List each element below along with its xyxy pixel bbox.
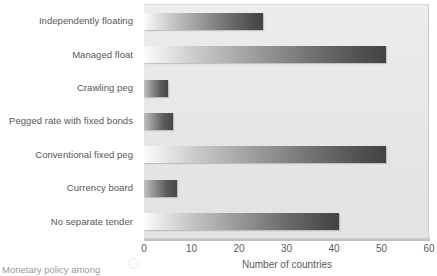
category-label-conventional-fixed-peg: Conventional fixed peg <box>35 149 133 160</box>
bar-row <box>144 72 428 105</box>
category-label-no-separate-tender: No separate tender <box>51 216 133 227</box>
bars-container <box>144 5 428 238</box>
bar-pegged-rate-with-fixed-bonds <box>144 113 173 130</box>
category-row: Pegged rate with fixed bonds <box>0 104 139 137</box>
x-tick-label-0: 0 <box>141 243 147 254</box>
bar-row <box>144 205 428 238</box>
x-tick-label-50: 50 <box>376 243 387 254</box>
figure-caption: Monetary policy among <box>2 264 100 276</box>
bar-row <box>144 138 428 171</box>
circle-icon <box>128 258 139 269</box>
category-label-independently-floating: Independently floating <box>39 15 133 26</box>
category-row: Conventional fixed peg <box>0 138 139 171</box>
bar-managed-float <box>144 46 386 63</box>
bar-currency-board <box>144 180 177 197</box>
category-row: No separate tender <box>0 205 139 238</box>
category-row: Currency board <box>0 171 139 204</box>
category-axis: Independently floating Managed float Cra… <box>0 4 139 238</box>
category-row: Independently floating <box>0 4 139 37</box>
x-axis-line <box>144 238 430 241</box>
bar-row <box>144 5 428 38</box>
x-tick-label-40: 40 <box>328 243 339 254</box>
x-tick-label-20: 20 <box>233 243 244 254</box>
category-label-managed-float: Managed float <box>72 49 133 60</box>
x-axis-title: Number of countries <box>144 259 430 270</box>
bar-crawling-peg <box>144 80 168 97</box>
bar-conventional-fixed-peg <box>144 146 386 163</box>
bar-independently-floating <box>144 13 263 30</box>
category-label-currency-board: Currency board <box>67 182 133 193</box>
bar-row <box>144 38 428 71</box>
x-tick-label-60: 60 <box>423 243 434 254</box>
bar-row <box>144 105 428 138</box>
x-axis-tick-labels: 0102030405060 <box>144 243 430 259</box>
bar-no-separate-tender <box>144 213 339 230</box>
category-row: Crawling peg <box>0 71 139 104</box>
x-tick-label-10: 10 <box>186 243 197 254</box>
bar-row <box>144 171 428 204</box>
plot-area <box>144 4 429 238</box>
category-label-crawling-peg: Crawling peg <box>77 82 133 93</box>
x-tick-label-30: 30 <box>281 243 292 254</box>
bar-chart-figure: Independently floating Managed float Cra… <box>0 0 437 276</box>
category-row: Managed float <box>0 37 139 70</box>
category-label-pegged-rate-with-fixed-bonds: Pegged rate with fixed bonds <box>9 115 133 126</box>
